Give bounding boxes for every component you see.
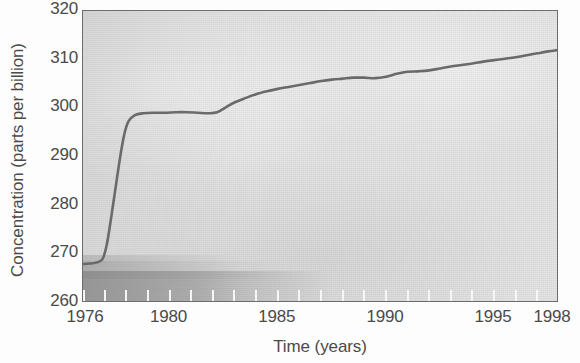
- y-tick-label: 320: [32, 0, 78, 19]
- x-axis-title: Time (years): [82, 337, 558, 357]
- y-axis-title: Concentration (parts per billion): [8, 5, 28, 315]
- x-tick-label: 1998: [533, 307, 570, 327]
- y-tick-label: 270: [32, 242, 78, 262]
- x-tick-label: 1995: [475, 307, 512, 327]
- y-tick-label: 310: [32, 48, 78, 68]
- plot-area: [82, 10, 558, 302]
- x-tick-label: 1980: [150, 307, 187, 327]
- x-tick-label: 1976: [66, 307, 103, 327]
- x-tick-label: 1985: [258, 307, 295, 327]
- y-tick-label: 300: [32, 96, 78, 116]
- data-line-concentration: [83, 11, 558, 302]
- figure-panel: Concentration (parts per billion) 260270…: [0, 0, 580, 363]
- y-tick-label: 290: [32, 145, 78, 165]
- y-tick-label: 280: [32, 194, 78, 214]
- x-minor-tick: [557, 290, 558, 301]
- x-tick-label: 1990: [366, 307, 403, 327]
